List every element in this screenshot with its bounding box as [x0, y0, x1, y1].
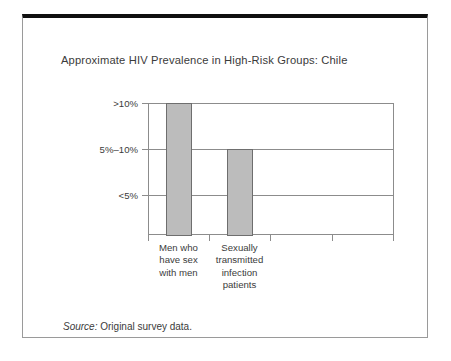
x-axis-label-sti-patients: Sexually transmitted infection patients [209, 242, 270, 292]
source-note: Source: Original survey data. [63, 321, 192, 332]
x-axis-tick-0 [148, 235, 149, 241]
y-axis-label-low: <5% [28, 190, 138, 201]
x-axis-label-men-who-have-sex-with-men: Men who have sex with men [148, 242, 209, 279]
x-axis-tick-3 [332, 235, 333, 241]
bar-men-who-have-sex-with-men [166, 103, 192, 236]
x-axis-label-line: transmitted [209, 254, 270, 266]
x-axis-label-line: Men who [148, 242, 209, 254]
chart-title: Approximate HIV Prevalence in High-Risk … [61, 54, 348, 66]
figure-frame: Approximate HIV Prevalence in High-Risk … [22, 14, 428, 338]
y-axis-label-mid: 5%–10% [28, 144, 138, 155]
x-axis-label-line: patients [209, 279, 270, 291]
bar-sti-patients [227, 149, 253, 236]
source-label: Source: [63, 321, 97, 332]
x-axis-tick-1 [209, 235, 210, 241]
x-axis-label-line: infection [209, 267, 270, 279]
x-axis-label-line: with men [148, 267, 209, 279]
x-axis-tick-4 [393, 235, 394, 241]
source-text: Original survey data. [97, 321, 192, 332]
x-axis-label-line: Sexually [209, 242, 270, 254]
x-axis-label-line: have sex [148, 254, 209, 266]
x-axis-tick-2 [270, 235, 271, 241]
y-axis-label-high: >10% [28, 98, 138, 109]
